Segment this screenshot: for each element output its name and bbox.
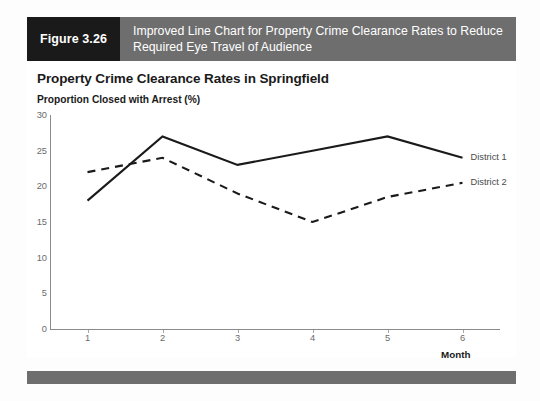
series-line-district-2 bbox=[88, 158, 463, 222]
chart-subtitle: Proportion Closed with Arrest (%) bbox=[37, 94, 200, 105]
x-tick-label: 4 bbox=[310, 333, 315, 343]
x-tick-label: 5 bbox=[385, 333, 390, 343]
line-series-plot bbox=[27, 111, 516, 341]
figure-page: Figure 3.26 Improved Line Chart for Prop… bbox=[0, 0, 540, 401]
x-tick-label: 3 bbox=[235, 333, 240, 343]
chart-card: Property Crime Clearance Rates in Spring… bbox=[27, 61, 516, 358]
x-axis-title: Month bbox=[441, 349, 470, 360]
figure-title: Improved Line Chart for Property Crime C… bbox=[120, 17, 516, 61]
series-label-district-1: District 1 bbox=[471, 152, 507, 162]
figure-header: Figure 3.26 Improved Line Chart for Prop… bbox=[27, 17, 516, 61]
series-line-district-1 bbox=[88, 136, 463, 200]
plot-area: 051015202530 District 1 District 2 Month… bbox=[27, 111, 516, 341]
series-label-district-2: District 2 bbox=[471, 177, 507, 187]
x-tick-label: 2 bbox=[160, 333, 165, 343]
figure-footer-bar bbox=[27, 371, 516, 384]
chart-title: Property Crime Clearance Rates in Spring… bbox=[37, 71, 329, 86]
x-tick-label: 6 bbox=[460, 333, 465, 343]
figure-number-label: Figure 3.26 bbox=[27, 17, 120, 61]
x-tick-label: 1 bbox=[85, 333, 90, 343]
